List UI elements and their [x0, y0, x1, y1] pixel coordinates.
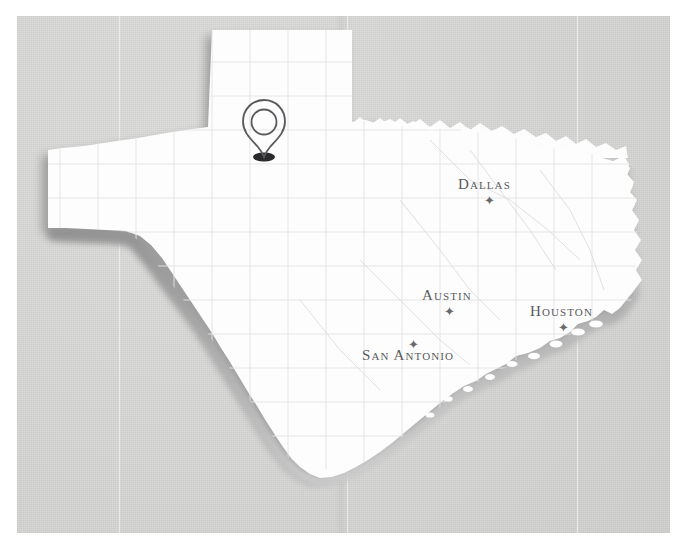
- city-marker-dallas: ✦: [484, 194, 495, 207]
- city-label-dallas: Dallas: [458, 176, 511, 193]
- city-marker-houston: ✦: [558, 321, 569, 334]
- texas-map: [0, 0, 690, 555]
- city-marker-austin: ✦: [444, 305, 455, 318]
- city-label-houston: Houston: [530, 303, 593, 320]
- city-label-san-antonio: San Antonio: [362, 347, 454, 364]
- map-screenshot: Dallas ✦ Austin ✦ Houston ✦ ✦ San Antoni…: [0, 0, 690, 555]
- city-label-austin: Austin: [422, 287, 472, 304]
